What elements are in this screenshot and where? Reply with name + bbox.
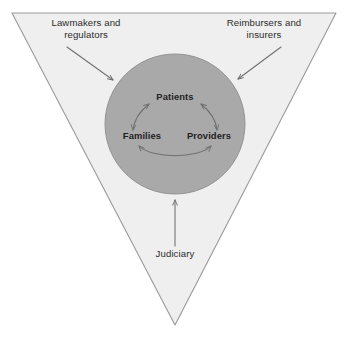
core-circle <box>105 54 245 194</box>
label-families: Families <box>111 130 173 141</box>
label-lawmakers-and-regulators: Lawmakers and regulators <box>32 17 140 40</box>
label-providers: Providers <box>177 130 241 141</box>
label-reimbursers-and-insurers: Reimbursers and insurers <box>208 17 320 40</box>
diagram-graphics <box>0 0 346 342</box>
label-patients: Patients <box>145 91 205 102</box>
label-judiciary: Judiciary <box>140 248 210 260</box>
diagram-canvas: Lawmakers and regulators Reimbursers and… <box>0 0 346 342</box>
